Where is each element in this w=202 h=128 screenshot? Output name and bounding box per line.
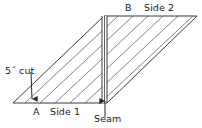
cut-arrow (31, 72, 32, 99)
point-b-label: B (125, 3, 132, 13)
side-1-label: Side 1 (50, 107, 80, 117)
seam-label: Seam (94, 114, 121, 124)
side-2-label: Side 2 (144, 3, 174, 13)
seam-strip (102, 16, 107, 103)
hatch-fill (0, 16, 202, 103)
diagram-canvas (0, 0, 202, 128)
cut-label: 5˝ cut (5, 66, 34, 76)
point-a-label: A (33, 107, 40, 117)
bias-cut-seam-diagram: 5˝ cut A Side 1 Seam B Side 2 (0, 0, 202, 128)
